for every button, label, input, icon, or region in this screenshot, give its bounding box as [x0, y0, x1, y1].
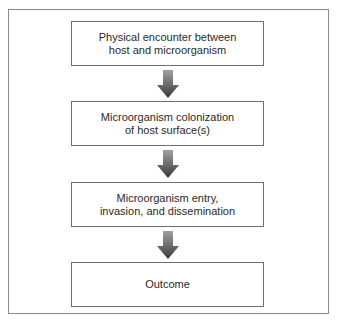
step-box-encounter: Physical encounter between host and micr… — [71, 21, 264, 66]
step-label: Microorganism entry, invasion, and disse… — [100, 192, 235, 218]
down-arrow-icon — [157, 150, 179, 179]
down-arrow-icon — [157, 231, 179, 260]
step-box-entry-invasion: Microorganism entry, invasion, and disse… — [71, 182, 264, 227]
step-label: Microorganism colonization of host surfa… — [101, 111, 234, 137]
step-label: Physical encounter between host and micr… — [99, 31, 237, 57]
step-label: Outcome — [145, 278, 190, 291]
step-box-outcome: Outcome — [71, 262, 264, 307]
step-box-colonization: Microorganism colonization of host surfa… — [71, 101, 264, 146]
down-arrow-icon — [157, 70, 179, 99]
